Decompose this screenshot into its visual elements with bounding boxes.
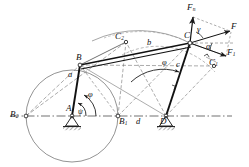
label-joint-C2: C2 — [115, 32, 124, 42]
label-force-F: F — [231, 22, 237, 31]
label-joint-C1: C1 — [209, 58, 218, 68]
joint-C2 — [124, 40, 127, 43]
rocker-arc — [122, 46, 215, 72]
joint-C — [188, 41, 192, 45]
label-joint-D: D — [160, 117, 167, 126]
label-joint-B2: B2 — [10, 110, 19, 120]
label-joint-A: A — [66, 104, 72, 113]
figure-canvas: A B C D B1 B2 C1 C2 a b c d φ ψ φ α γ F … — [0, 0, 249, 167]
link-rocker-DC — [166, 43, 190, 116]
label-angle-phi-rocker: φ — [162, 58, 167, 67]
label-joint-C: C — [184, 31, 190, 40]
joint-B — [78, 63, 82, 67]
mechanism-diagram-svg — [0, 0, 249, 167]
label-angle-psi-crank: ψ — [78, 108, 83, 116]
label-link-d: d — [136, 117, 140, 126]
link-coupler-BC-edge — [81, 47, 191, 69]
label-link-a: a — [68, 70, 72, 79]
label-force-Fn: Fn — [187, 3, 196, 13]
force-vector-Fn — [190, 17, 193, 43]
link-coupler-BC — [80, 43, 190, 65]
label-joint-B1: B1 — [119, 117, 128, 127]
label-angle-alpha: α — [206, 42, 210, 51]
joint-B2 — [24, 114, 28, 118]
label-angle-gamma: γ — [197, 25, 200, 34]
label-angle-phi-crank: φ — [88, 90, 93, 99]
construction-lines — [26, 17, 233, 116]
label-joint-B: B — [76, 53, 82, 62]
support-A — [63, 114, 81, 130]
label-link-c: c — [176, 60, 180, 69]
label-force-F1: F1 — [227, 48, 236, 58]
label-link-b: b — [147, 38, 151, 47]
